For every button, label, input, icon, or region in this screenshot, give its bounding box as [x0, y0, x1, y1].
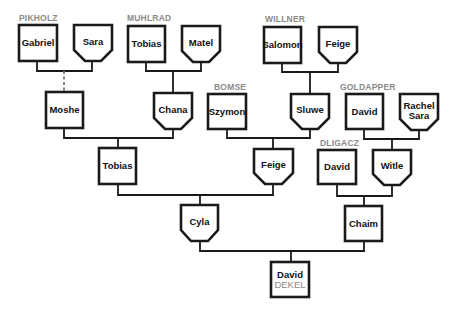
person-sara[interactable]: Sara	[74, 25, 112, 61]
family-label-willner: WILLNER	[265, 14, 305, 24]
family-label-bomse: BOMSE	[214, 82, 246, 92]
person-name: Feige	[326, 38, 351, 49]
person-cyla[interactable]: Cyla	[181, 205, 218, 241]
parent-link-feige	[227, 129, 310, 149]
person-tobias[interactable]: Tobias	[99, 148, 136, 184]
person-name: Chaim	[349, 218, 378, 229]
person-matel[interactable]: Matel	[182, 26, 220, 62]
person-name: Sara	[83, 36, 104, 47]
person-name: Szymon	[209, 106, 246, 117]
person-david-dligacz[interactable]: David	[318, 150, 356, 184]
person-name: Matel	[189, 37, 213, 48]
person-name: David	[352, 106, 378, 117]
person-chana[interactable]: Chana	[154, 93, 192, 129]
parent-link-witle	[364, 129, 419, 150]
parent-link-chaim	[337, 184, 392, 206]
family-label-muhlrad: MUHLRAD	[127, 13, 171, 23]
person-chaim[interactable]: Chaim	[345, 206, 382, 241]
person-david-goldapper[interactable]: David	[346, 94, 383, 129]
couple-connector	[64, 128, 173, 138]
person-sluwe[interactable]: Sluwe	[291, 94, 329, 129]
parent-link-cyla	[118, 184, 273, 205]
couple-connector	[227, 129, 310, 138]
couple-connector	[282, 63, 338, 72]
person-name: Tobias	[103, 160, 133, 171]
person-tobias-muhlrad[interactable]: Tobias	[128, 26, 165, 62]
person-witle[interactable]: Witle	[373, 150, 411, 185]
person-name: Gabriel	[22, 37, 55, 48]
family-label-goldapper: GOLDAPPER	[340, 82, 396, 92]
parent-link-moshe	[37, 61, 92, 92]
family-label-pikholz: PIKHOLZ	[19, 13, 58, 23]
parent-link-tobias	[64, 128, 173, 148]
person-rachel-sara[interactable]: RachelSara	[400, 94, 438, 130]
person-name: Chana	[158, 104, 188, 115]
person-feige-willner[interactable]: Feige	[319, 27, 357, 63]
person-feige[interactable]: Feige	[254, 149, 293, 184]
family-tree-diagram: GabrielSaraTobiasMatelSalomonFeigeMosheC…	[0, 0, 455, 312]
person-moshe[interactable]: Moshe	[46, 92, 83, 128]
person-nodes: GabrielSaraTobiasMatelSalomonFeigeMosheC…	[19, 25, 438, 297]
person-salomon[interactable]: Salomon	[262, 27, 302, 63]
couple-connector	[146, 62, 201, 71]
person-szymon[interactable]: Szymon	[208, 94, 246, 129]
person-name: Witle	[381, 160, 404, 171]
person-name: Moshe	[49, 104, 79, 115]
person-name: Feige	[261, 159, 286, 170]
couple-connector	[118, 184, 273, 195]
person-name: Salomon	[262, 39, 302, 50]
person-name: Tobias	[132, 38, 162, 49]
family-label-dligacz: DLIGACZ	[320, 138, 359, 148]
parent-link-chana	[146, 62, 201, 93]
parent-link-david-dekel	[200, 241, 364, 262]
couple-connector	[200, 241, 364, 251]
parent-link-sluwe	[282, 63, 338, 94]
person-gabriel[interactable]: Gabriel	[19, 25, 57, 61]
couple-connector	[37, 61, 92, 71]
person-name: Sara	[409, 110, 430, 121]
person-name: Sluwe	[296, 104, 323, 115]
person-david-dekel[interactable]: DavidDEKEL	[271, 262, 309, 297]
person-surname: DEKEL	[274, 279, 305, 290]
person-name: Cyla	[189, 216, 210, 227]
person-name: David	[324, 161, 350, 172]
